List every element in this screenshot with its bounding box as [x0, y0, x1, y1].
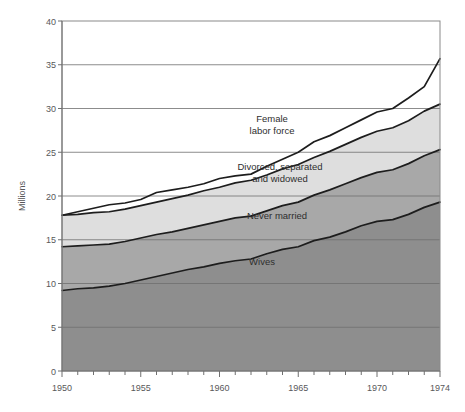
- y-tick-label-20: 20: [46, 192, 56, 202]
- x-tick-marks: [62, 371, 440, 377]
- x-tick-label-1974: 1974: [430, 383, 450, 393]
- y-tick-label-35: 35: [46, 60, 56, 70]
- y-tick-label-0: 0: [51, 367, 56, 377]
- stacked-area-chart: 40 35 30 25 20 15 10 5 0 1950 1955 1960 …: [0, 0, 465, 412]
- y-tick-label-40: 40: [46, 17, 56, 27]
- series-label-never-married: Never married: [247, 210, 307, 221]
- y-tick-label-30: 30: [46, 104, 56, 114]
- x-tick-label-1965: 1965: [288, 383, 308, 393]
- y-axis-title: Millions: [17, 181, 27, 212]
- y-tick-label-15: 15: [46, 235, 56, 245]
- series-label-divorced-line1: Divorced, separated: [237, 161, 322, 172]
- series-label-female-labor-force-line2: labor force: [250, 125, 295, 136]
- y-tick-label-10: 10: [46, 279, 56, 289]
- x-tick-label-1970: 1970: [367, 383, 387, 393]
- chart-container: 40 35 30 25 20 15 10 5 0 1950 1955 1960 …: [0, 0, 465, 412]
- y-tick-label-25: 25: [46, 148, 56, 158]
- x-tick-label-1955: 1955: [131, 383, 151, 393]
- y-tick-label-5: 5: [51, 323, 56, 333]
- series-label-divorced-line2: and widowed: [252, 173, 307, 184]
- x-tick-label-1950: 1950: [52, 383, 72, 393]
- y-tick-marks: [58, 21, 62, 371]
- x-tick-label-1960: 1960: [209, 383, 229, 393]
- series-label-female-labor-force-line1: Female: [256, 113, 288, 124]
- series-label-wives: Wives: [249, 256, 275, 267]
